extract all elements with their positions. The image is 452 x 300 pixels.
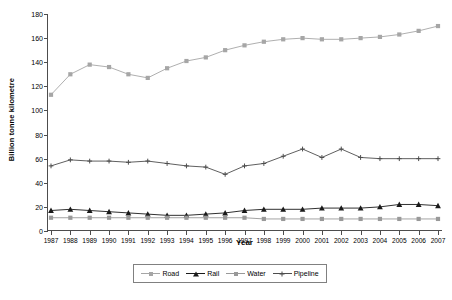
data-point <box>300 217 304 221</box>
x-tick-mark <box>361 231 362 235</box>
data-point <box>49 216 53 220</box>
data-point <box>145 159 150 164</box>
data-point <box>68 72 72 76</box>
data-point <box>49 93 53 97</box>
data-point <box>203 165 208 170</box>
chart-legend: RoadRailWaterPipeline <box>133 264 327 283</box>
legend-marker-icon <box>186 269 205 278</box>
legend-marker-icon <box>273 269 292 278</box>
data-point <box>204 216 208 220</box>
legend-item-water[interactable]: Water <box>226 269 265 278</box>
x-tick-mark <box>225 231 226 235</box>
data-point <box>339 37 343 41</box>
data-point <box>184 216 188 220</box>
data-point <box>320 155 325 160</box>
data-point <box>281 154 286 159</box>
data-point <box>320 217 324 221</box>
data-point <box>262 217 266 221</box>
data-point <box>436 156 441 161</box>
series-rail <box>48 202 441 218</box>
legend-item-rail[interactable]: Rail <box>186 269 219 278</box>
data-point <box>261 161 266 166</box>
series-plot <box>47 14 442 231</box>
x-tick-mark <box>303 231 304 235</box>
legend-item-pipeline[interactable]: Pipeline <box>273 269 319 278</box>
data-point <box>436 24 440 28</box>
data-point <box>68 157 73 162</box>
data-point <box>223 172 228 177</box>
data-point <box>281 37 285 41</box>
x-tick-mark <box>438 231 439 235</box>
data-point <box>281 217 285 221</box>
data-point <box>320 37 324 41</box>
data-point <box>262 40 266 44</box>
data-point <box>204 55 208 59</box>
data-point <box>358 155 363 160</box>
legend-label: Pipeline <box>294 270 319 277</box>
x-tick-mark <box>380 231 381 235</box>
y-axis-title: Billion tonne kilometre <box>0 0 22 240</box>
data-point <box>88 63 92 67</box>
x-tick-mark <box>167 231 168 235</box>
data-point <box>107 159 112 164</box>
data-point <box>242 43 246 47</box>
x-tick-mark <box>245 231 246 235</box>
data-point <box>359 217 363 221</box>
series-water <box>49 216 440 221</box>
x-tick-mark <box>70 231 71 235</box>
x-tick-mark <box>322 231 323 235</box>
y-axis-title-text: Billion tonne kilometre <box>7 78 16 161</box>
legend-label: Rail <box>207 270 219 277</box>
data-point <box>397 217 401 221</box>
data-point <box>87 159 92 164</box>
data-point <box>223 216 227 220</box>
data-point <box>165 66 169 70</box>
x-tick-mark <box>109 231 110 235</box>
x-tick-mark <box>264 231 265 235</box>
x-tick-mark <box>399 231 400 235</box>
data-point <box>436 217 440 221</box>
x-tick-mark <box>128 231 129 235</box>
series-pipeline <box>49 147 441 177</box>
legend-label: Water <box>247 270 265 277</box>
legend-label: Road <box>162 270 179 277</box>
data-point <box>165 161 170 166</box>
data-point <box>107 65 111 69</box>
data-point <box>397 156 402 161</box>
x-tick-mark <box>186 231 187 235</box>
data-point <box>339 147 344 152</box>
x-tick-mark <box>283 231 284 235</box>
data-point <box>223 48 227 52</box>
x-tick-mark <box>51 231 52 235</box>
data-point <box>146 76 150 80</box>
data-point <box>88 216 92 220</box>
data-point <box>242 164 247 169</box>
data-point <box>165 216 169 220</box>
data-point <box>126 216 130 220</box>
x-tick-mark <box>419 231 420 235</box>
data-point <box>126 160 131 165</box>
legend-item-road[interactable]: Road <box>141 269 179 278</box>
chart-container: Billion tonne kilometre 0204060801001201… <box>0 0 452 300</box>
legend-marker-icon <box>226 269 245 278</box>
data-point <box>300 147 305 152</box>
data-point <box>300 36 304 40</box>
x-tick-mark <box>148 231 149 235</box>
series-road <box>49 24 440 97</box>
data-point <box>49 164 54 169</box>
data-point <box>378 156 383 161</box>
data-point <box>184 164 189 169</box>
data-point <box>417 217 421 221</box>
x-tick-mark <box>341 231 342 235</box>
data-point <box>146 216 150 220</box>
data-point <box>378 35 382 39</box>
data-point <box>378 217 382 221</box>
data-point <box>126 72 130 76</box>
legend-marker-icon <box>141 269 160 278</box>
plot-area: 020406080100120140160180 198719881989199… <box>47 14 442 231</box>
x-tick-mark <box>90 231 91 235</box>
data-point <box>417 29 421 33</box>
data-point <box>397 32 401 36</box>
data-point <box>68 216 72 220</box>
y-tick-mark <box>44 231 48 232</box>
